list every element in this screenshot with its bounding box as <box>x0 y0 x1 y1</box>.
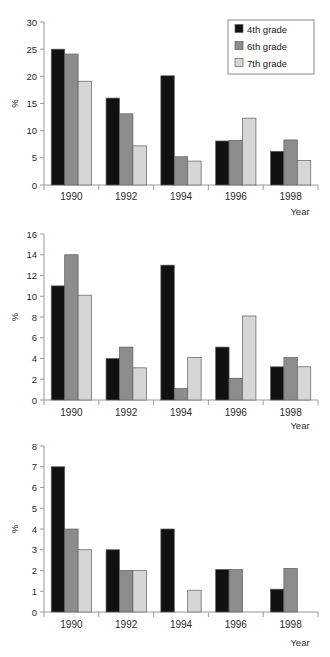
y-tick-label: 10 <box>26 291 37 302</box>
y-axis-title: % <box>9 312 20 321</box>
bar <box>297 161 310 185</box>
x-category-label: 1996 <box>225 619 248 630</box>
bar <box>284 357 297 400</box>
y-tick-label: 14 <box>26 249 37 260</box>
y-tick-label: 20 <box>26 71 37 82</box>
bar <box>216 141 229 185</box>
y-tick-label: 0 <box>32 607 37 618</box>
legend-swatch-2 <box>235 42 243 50</box>
chart-svg-2: 0246810121416%19901992199419961998Year <box>0 220 330 430</box>
chart-3-plot: 012345678%19901992199419961998Year <box>0 430 330 657</box>
bar <box>270 589 283 612</box>
bar <box>65 529 78 612</box>
x-category-label: 1996 <box>225 191 248 202</box>
legend-label-2: 6th grade <box>247 41 287 52</box>
bar <box>51 49 64 185</box>
y-tick-label: 6 <box>32 482 37 493</box>
bar <box>119 114 132 185</box>
bar <box>51 286 64 400</box>
y-tick-label: 8 <box>32 441 37 452</box>
legend-swatch-1 <box>235 25 243 33</box>
bar <box>216 347 229 400</box>
bar <box>65 255 78 400</box>
bar <box>106 359 119 401</box>
bar <box>284 140 297 185</box>
bar <box>161 529 174 612</box>
y-axis-title: % <box>9 524 20 533</box>
bar <box>65 54 78 185</box>
bar <box>133 571 146 613</box>
y-tick-label: 0 <box>32 180 37 191</box>
y-tick-label: 1 <box>32 586 37 597</box>
y-tick-label: 30 <box>26 17 37 28</box>
y-axis-title: % <box>9 99 20 108</box>
y-tick-label: 0 <box>32 395 37 406</box>
legend-swatch-3 <box>235 59 243 67</box>
y-tick-label: 5 <box>32 152 37 163</box>
bar <box>188 357 201 400</box>
bar <box>270 151 283 185</box>
chart-panel-3: 012345678%19901992199419961998Year <box>0 430 330 657</box>
y-tick-label: 10 <box>26 125 37 136</box>
bar <box>119 347 132 400</box>
bar <box>133 368 146 400</box>
y-tick-label: 25 <box>26 44 37 55</box>
bar <box>188 590 201 612</box>
y-tick-label: 16 <box>26 229 37 240</box>
bar <box>133 146 146 185</box>
y-tick-label: 7 <box>32 461 37 472</box>
x-category-label: 1992 <box>115 191 138 202</box>
x-axis-title: Year <box>290 420 309 430</box>
legend-label-3: 7th grade <box>247 58 287 69</box>
bar <box>106 98 119 185</box>
chart-svg-1: 051015202530%19901992199419961998Year4th… <box>0 0 330 220</box>
x-category-label: 1996 <box>225 407 248 418</box>
bar <box>243 316 256 400</box>
bar <box>119 571 132 613</box>
chart-panel-1: 051015202530%19901992199419961998Year4th… <box>0 0 330 220</box>
bar <box>229 140 242 185</box>
y-tick-label: 2 <box>32 565 37 576</box>
x-category-label: 1998 <box>279 407 302 418</box>
x-category-label: 1998 <box>279 191 302 202</box>
y-tick-label: 4 <box>32 524 37 535</box>
x-category-label: 1994 <box>170 191 193 202</box>
x-category-label: 1992 <box>115 619 138 630</box>
figure-page: 051015202530%19901992199419961998Year4th… <box>0 0 330 657</box>
x-category-label: 1994 <box>170 407 193 418</box>
chart-panel-2: 0246810121416%19901992199419961998Year <box>0 220 330 430</box>
bar <box>174 389 187 400</box>
y-tick-label: 4 <box>32 353 37 364</box>
y-tick-label: 12 <box>26 270 37 281</box>
bar <box>78 81 91 185</box>
y-tick-label: 15 <box>26 98 37 109</box>
x-category-label: 1990 <box>60 407 83 418</box>
chart-svg-3: 012345678%19901992199419961998Year <box>0 430 330 657</box>
bar <box>174 157 187 185</box>
bar <box>270 367 283 400</box>
bar <box>161 265 174 400</box>
bar <box>229 378 242 400</box>
bar <box>78 550 91 612</box>
x-category-label: 1994 <box>170 619 193 630</box>
y-tick-label: 5 <box>32 503 37 514</box>
bar <box>51 467 64 612</box>
y-tick-label: 6 <box>32 332 37 343</box>
y-tick-label: 2 <box>32 374 37 385</box>
y-tick-label: 8 <box>32 312 37 323</box>
x-category-label: 1990 <box>60 619 83 630</box>
bar <box>216 569 229 612</box>
x-axis-title: Year <box>290 637 309 648</box>
y-tick-label: 3 <box>32 544 37 555</box>
x-category-label: 1992 <box>115 407 138 418</box>
legend-label-1: 4th grade <box>247 24 287 35</box>
bar <box>297 367 310 400</box>
x-category-label: 1998 <box>279 619 302 630</box>
bar <box>243 118 256 185</box>
bar <box>188 161 201 185</box>
bar <box>161 76 174 185</box>
bar <box>284 568 297 612</box>
bar <box>78 295 91 400</box>
chart-2-plot: 0246810121416%19901992199419961998Year <box>0 220 330 430</box>
bar <box>229 569 242 612</box>
